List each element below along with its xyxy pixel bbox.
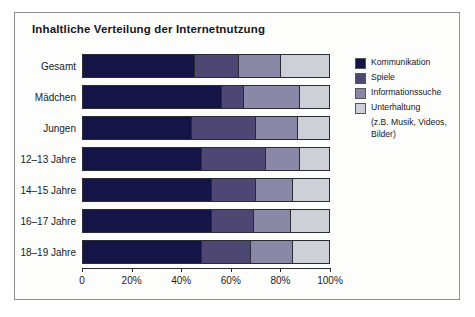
bar-segment-informationssuche (255, 117, 297, 139)
bar-segment-spiele (211, 179, 255, 201)
x-axis-line (82, 268, 330, 269)
x-tick (280, 268, 281, 272)
bar-row: Mädchen (82, 85, 330, 109)
category-label: 12–13 Jahre (20, 154, 76, 165)
legend-label: Kommunikation (371, 57, 430, 69)
category-label: Gesamt (41, 60, 76, 71)
bar-segment-kommunikation (83, 148, 201, 170)
category-label: Jungen (43, 122, 76, 133)
legend-item: Spiele (355, 72, 455, 84)
x-tick (132, 268, 133, 272)
bar-segment-kommunikation (83, 241, 201, 263)
x-tick-label: 60% (221, 275, 241, 286)
bar-segment-unterhaltung (280, 55, 329, 77)
legend-swatch-icon (355, 88, 366, 99)
bar-segment-unterhaltung (290, 210, 329, 232)
bar-segment-informationssuche (255, 179, 292, 201)
legend-item: Kommunikation (355, 57, 455, 69)
category-label: 16–17 Jahre (20, 216, 76, 227)
legend-subline: Bilder) (371, 129, 455, 141)
legend-swatch-icon (355, 73, 366, 84)
chart-figure: Inhaltliche Verteilung der Internetnutzu… (14, 12, 460, 300)
bar-segment-kommunikation (83, 86, 221, 108)
legend-label: Informationssuche (371, 87, 441, 99)
bar-segment-informationssuche (265, 148, 299, 170)
x-tick (330, 268, 331, 272)
x-tick-label: 40% (171, 275, 191, 286)
bar-segment-informationssuche (243, 86, 300, 108)
legend-swatch-icon (355, 58, 366, 69)
legend-item: Unterhaltung (355, 102, 455, 114)
bar-segment-spiele (191, 117, 255, 139)
x-tick-label: 80% (270, 275, 290, 286)
bar-segment-spiele (194, 55, 238, 77)
bar-segment-informationssuche (253, 210, 290, 232)
bar-row: 12–13 Jahre (82, 147, 330, 171)
bar-row: 14–15 Jahre (82, 178, 330, 202)
bar-segment-kommunikation (83, 117, 191, 139)
x-tick-label: 20% (122, 275, 142, 286)
bar-row: 18–19 Jahre (82, 240, 330, 264)
x-tick (181, 268, 182, 272)
bar-segment-unterhaltung (292, 179, 329, 201)
legend-label: Spiele (371, 72, 395, 84)
x-tick (82, 268, 83, 272)
legend-item: Informationssuche (355, 87, 455, 99)
bar-segment-kommunikation (83, 179, 211, 201)
category-label: 18–19 Jahre (20, 247, 76, 258)
bar-segment-informationssuche (238, 55, 280, 77)
legend-subline: (z.B. Musik, Videos, (371, 117, 455, 129)
bar-segment-spiele (201, 241, 250, 263)
category-label: 14–15 Jahre (20, 185, 76, 196)
bar-row: Jungen (82, 116, 330, 140)
bar-row: 16–17 Jahre (82, 209, 330, 233)
chart-legend: KommunikationSpieleInformationssucheUnte… (355, 57, 455, 140)
bar-segment-spiele (211, 210, 253, 232)
legend-swatch-icon (355, 103, 366, 114)
x-tick-label: 0 (79, 275, 85, 286)
bar-segment-spiele (201, 148, 265, 170)
bar-segment-unterhaltung (292, 241, 329, 263)
bar-segment-informationssuche (250, 241, 292, 263)
bar-row: Gesamt (82, 54, 330, 78)
x-tick (231, 268, 232, 272)
legend-label: Unterhaltung (371, 102, 420, 114)
plot-area: GesamtMädchenJungen12–13 Jahre14–15 Jahr… (82, 50, 330, 268)
bar-segment-kommunikation (83, 55, 194, 77)
bar-segment-spiele (221, 86, 243, 108)
bar-segment-unterhaltung (297, 117, 329, 139)
chart-title: Inhaltliche Verteilung der Internetnutzu… (32, 23, 265, 35)
bar-segment-kommunikation (83, 210, 211, 232)
x-tick-label: 100% (317, 275, 343, 286)
bar-segment-unterhaltung (299, 148, 329, 170)
bar-segment-unterhaltung (299, 86, 329, 108)
category-label: Mädchen (35, 91, 76, 102)
